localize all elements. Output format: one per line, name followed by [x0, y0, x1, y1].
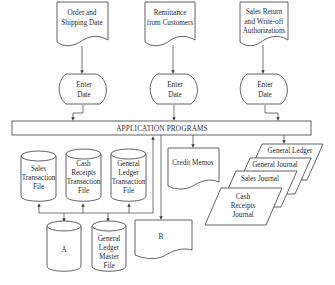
file-label: Transaction: [112, 178, 146, 186]
process-label: APPLICATION PROGRAMS: [116, 125, 208, 133]
flow-arrow: [265, 105, 278, 119]
op-label: Date: [258, 91, 272, 99]
file-label: General: [117, 160, 140, 168]
op-label: Enter: [76, 81, 92, 89]
flow-arrow: [73, 105, 83, 119]
file-label: Master: [99, 253, 120, 261]
op-label: Enter: [257, 81, 273, 89]
journal-label: Journal: [232, 211, 253, 219]
doc-label: B: [159, 233, 164, 241]
journal-label: Receipts: [231, 202, 256, 210]
output-document-b: B: [135, 220, 192, 259]
application-programs-process: APPLICATION PROGRAMS: [12, 121, 311, 135]
file-label: File: [123, 187, 134, 195]
doc-label: Sales Return: [246, 8, 283, 16]
file-label: Sales: [31, 165, 46, 173]
doc-label: Shipping Date: [61, 19, 102, 27]
output-document-credit-memos: Credit Memos: [168, 148, 219, 189]
file-label: Ledger: [118, 169, 139, 177]
doc-label: Order and: [68, 9, 97, 17]
manual-input-enter-date-1: Enter Date: [59, 74, 106, 104]
doc-label: from Customers: [147, 19, 194, 27]
op-label: Date: [77, 91, 91, 99]
input-document-order-shipping: Order and Shipping Date: [57, 2, 108, 46]
file-label: Cash: [76, 160, 91, 168]
disk-sales-transaction-file: Sales Transaction File: [21, 151, 56, 201]
file-label: File: [103, 262, 114, 270]
file-label: General: [98, 235, 121, 243]
op-label: Enter: [167, 81, 183, 89]
op-label: Date: [168, 91, 182, 99]
file-label: File: [33, 183, 44, 191]
manual-input-enter-date-2: Enter Date: [150, 74, 197, 104]
disk-general-ledger-transaction-file: General Ledger Transaction File: [111, 149, 146, 201]
journal-label: Cash: [236, 193, 251, 201]
journal-label: Sales Journal: [241, 175, 279, 183]
journal-cash-receipts: Cash Receipts Journal: [205, 188, 282, 225]
doc-label: Authorizations: [243, 27, 286, 35]
doc-label: and Write-off: [245, 18, 284, 26]
input-document-sales-return: Sales Return and Write-off Authorization…: [240, 2, 288, 46]
file-label: Ledger: [99, 244, 120, 252]
file-label: File: [78, 187, 89, 195]
disk-file-a: A: [47, 221, 81, 271]
file-label: A: [61, 246, 67, 254]
doc-label: Credit Memos: [172, 159, 214, 167]
input-document-remittance: Remittance from Customers: [145, 2, 195, 46]
file-label: Transaction: [22, 174, 56, 182]
file-label: Receipts: [71, 169, 96, 177]
disk-cash-receipts-transaction-file: Cash Receipts Transaction File: [66, 149, 101, 201]
journal-label: General Journal: [252, 161, 298, 169]
flowchart-canvas: Order and Shipping Date Remittance from …: [0, 0, 335, 285]
disk-general-ledger-master-file: General Ledger Master File: [92, 221, 126, 271]
manual-input-enter-date-3: Enter Date: [240, 74, 287, 104]
journal-label: General Ledger: [268, 147, 314, 155]
doc-label: Remittance: [154, 9, 187, 17]
file-label: Transaction: [67, 178, 101, 186]
